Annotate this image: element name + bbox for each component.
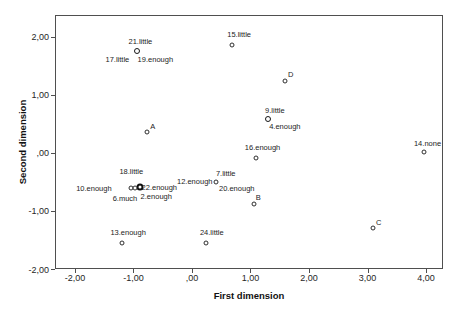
x-axis-tick-label: -2,00 [65, 273, 86, 283]
data-point-label: 24.little [200, 229, 224, 237]
y-axis-tick [51, 37, 55, 38]
data-point-marker [120, 240, 125, 245]
y-axis-tick [51, 211, 55, 212]
y-axis-tick-label: -2,00 [9, 265, 49, 275]
plot-area: 21.little17.little19.enough15.littleD9.l… [55, 15, 443, 269]
x-axis-tick-label: 4,00 [417, 273, 435, 283]
x-axis-tick-label: ,00 [186, 273, 199, 283]
data-point-label: 2.enough [141, 193, 172, 201]
data-point-label: 4.enough [269, 123, 300, 131]
y-axis-tick [51, 269, 55, 270]
data-point-label: 15.little [227, 31, 251, 39]
data-point-label: 19.enough [138, 56, 173, 64]
y-axis-tick [51, 153, 55, 154]
data-point-marker [133, 186, 138, 191]
data-point-label: 20.enough [219, 185, 254, 193]
data-point-marker [203, 240, 208, 245]
data-point-label: 12.enough [177, 178, 212, 186]
data-point-marker [213, 180, 218, 185]
data-point-marker [421, 150, 426, 155]
y-axis-tick-label: ,00 [9, 148, 49, 158]
x-axis-tick-label: 1,00 [242, 273, 260, 283]
data-point-marker [252, 201, 257, 206]
data-point-label: 9.little [265, 107, 285, 115]
y-axis-tick [51, 95, 55, 96]
y-axis-tick-label: 1,00 [9, 90, 49, 100]
y-axis-tick-label: 2,00 [9, 32, 49, 42]
data-point-marker [134, 48, 140, 54]
x-axis-tick-label: 3,00 [359, 273, 377, 283]
data-point-label: 18.little [119, 168, 143, 176]
data-point-marker [144, 129, 149, 134]
data-point-label: 17.little [105, 56, 129, 64]
x-axis-tick-label: -1,00 [123, 273, 144, 283]
scatter-plot-figure: Second dimension 21.little17.little19.en… [0, 0, 459, 314]
data-point-label: A [150, 123, 155, 131]
x-axis-title: First dimension [214, 290, 285, 301]
data-point-label: 6.much [113, 195, 138, 203]
data-point-marker [253, 156, 258, 161]
data-point-label: 14.none [414, 140, 441, 148]
data-point-label: B [256, 194, 261, 202]
data-point-label: C [376, 219, 381, 227]
data-point-marker [230, 43, 235, 48]
data-point-marker [370, 225, 375, 230]
data-point-label: D [288, 71, 293, 79]
data-point-label: 7.little [216, 170, 236, 178]
x-axis-tick-label: 2,00 [300, 273, 318, 283]
data-point-marker [282, 79, 287, 84]
y-axis-tick-label: -1,00 [9, 206, 49, 216]
data-point-label: 16.enough [245, 144, 280, 152]
data-point-label: 13.enough [110, 229, 145, 237]
y-axis-title: Second dimension [17, 100, 28, 184]
data-point-label: 21.little [128, 38, 152, 46]
data-point-label: 10.enough [76, 185, 111, 193]
data-point-label: 22.enough [142, 184, 177, 192]
